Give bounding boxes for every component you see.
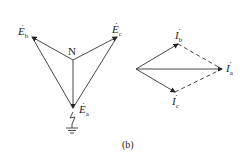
label-eb: ·Eb — [18, 26, 28, 40]
phasor-diagram-canvas — [0, 0, 245, 158]
phasor-ib — [136, 44, 178, 69]
ground-fault-zigzag-icon — [70, 112, 75, 124]
label-ia: ·Ia — [226, 63, 233, 77]
line-ec-ea — [73, 37, 117, 108]
label-ec: ·Ec — [112, 24, 122, 38]
phasor-ic — [136, 69, 175, 92]
dashed-ic-ia — [175, 69, 222, 92]
figure-caption: (b) — [122, 140, 134, 150]
label-neutral: N — [68, 46, 76, 57]
label-ic: ·Ic — [172, 96, 179, 110]
label-ea: ·Ea — [79, 104, 89, 118]
label-ib: ·Ib — [175, 30, 182, 44]
dashed-ib-ia — [178, 44, 222, 69]
current-phasor-diagram — [136, 44, 222, 92]
line-eb-ea — [32, 37, 73, 108]
